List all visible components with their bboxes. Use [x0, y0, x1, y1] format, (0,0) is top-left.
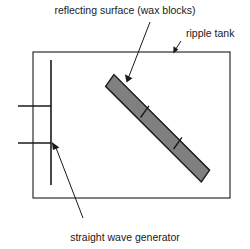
arrowhead-wave-generator: [52, 142, 60, 150]
label-ripple-tank: ripple tank: [186, 27, 235, 39]
wax-blocks-group: [106, 75, 210, 182]
leader-line-reflecting-surface: [129, 22, 151, 78]
arrowhead-reflecting-surface: [125, 74, 132, 82]
leader-line-wave-generator: [56, 147, 84, 219]
label-straight-wave-generator: straight wave generator: [70, 231, 180, 243]
ripple-tank-figure: reflecting surface (wax blocks) ripple t…: [0, 0, 250, 249]
leader-wave-generator: [52, 142, 83, 218]
label-reflecting-surface: reflecting surface (wax blocks): [54, 4, 195, 16]
wax-block-bar: [106, 75, 210, 182]
